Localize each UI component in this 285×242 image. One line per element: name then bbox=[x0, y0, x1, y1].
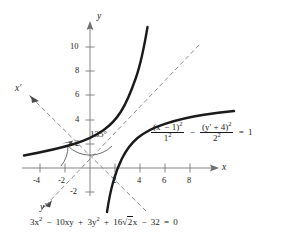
x-prime-axis-label: x' bbox=[15, 84, 21, 94]
x-axis bbox=[22, 164, 219, 173]
general-form-equation: 3x2 − 10xy + 3y2 + 16√2x − 32 = 0 bbox=[30, 218, 178, 227]
right-denominator-exp: 2 bbox=[217, 131, 220, 138]
left-numerator-base: (x' − 1) bbox=[153, 122, 179, 132]
y-axis bbox=[86, 21, 95, 196]
y-axis-label: y bbox=[97, 12, 101, 22]
gf-term1-exp: 2 bbox=[39, 215, 42, 222]
y-tick-label-8: 8 bbox=[75, 66, 79, 75]
right-numerator-exp: 2 bbox=[228, 120, 231, 127]
gf-term1: 3x2 bbox=[30, 217, 42, 227]
x-tick-label-2: 2 bbox=[112, 176, 116, 185]
gf-term5: 32 bbox=[151, 217, 160, 227]
gf-term3-exp: 2 bbox=[96, 215, 99, 222]
gf-op1: − bbox=[45, 217, 54, 227]
gf-op4: − bbox=[139, 217, 148, 227]
left-fraction: (x' − 1)2 12 bbox=[151, 122, 184, 144]
left-denominator-exp: 2 bbox=[168, 131, 171, 138]
right-fraction: (y' + 4)2 22 bbox=[200, 122, 233, 144]
x-tick-label-6: 6 bbox=[162, 176, 166, 185]
y-tick-label-4: 4 bbox=[75, 115, 79, 124]
equation-rhs: 1 bbox=[248, 127, 253, 137]
left-numerator-exp: 2 bbox=[179, 120, 182, 127]
gf-term4-variable: x bbox=[133, 217, 138, 227]
gf-rhs: 0 bbox=[173, 217, 178, 227]
x-prime-axis bbox=[29, 95, 146, 211]
gf-term1-base: 3x bbox=[30, 217, 39, 227]
x-tick-label-neg2: -2 bbox=[58, 176, 65, 185]
gf-equals-sign: = bbox=[162, 217, 171, 227]
math-figure: y x x' y' 135° -4 -2 2 4 6 8 10 8 6 4 2 … bbox=[0, 0, 285, 242]
right-denominator: 22 bbox=[200, 133, 233, 143]
y-tick-label-2: 2 bbox=[75, 139, 79, 148]
left-denominator: 12 bbox=[151, 133, 184, 143]
x-tick-label-8: 8 bbox=[187, 176, 191, 185]
x-axis-label: x bbox=[222, 163, 226, 173]
x-tick-label-4: 4 bbox=[137, 176, 141, 185]
gf-op3: + bbox=[102, 217, 111, 227]
hyperbola-upper-branch bbox=[24, 27, 148, 156]
gf-term3: 3y2 bbox=[87, 217, 99, 227]
x-tick-label-neg4: -4 bbox=[33, 176, 40, 185]
right-numerator-base: (y' + 4) bbox=[202, 122, 228, 132]
gf-term4: 16√2x bbox=[113, 216, 137, 227]
gf-term4-coefficient: 16 bbox=[113, 217, 122, 227]
gf-term2: 10xy bbox=[56, 217, 74, 227]
equation-minus-operator: − bbox=[188, 127, 197, 137]
y-tick-label-10: 10 bbox=[70, 42, 79, 51]
y-tick-label-6: 6 bbox=[75, 90, 79, 99]
gf-op2: + bbox=[76, 217, 85, 227]
equation-equals-sign: = bbox=[237, 127, 246, 137]
standard-form-equation: (x' − 1)2 12 − (y' + 4)2 22 = 1 bbox=[150, 122, 253, 144]
y-tick-label-neg2: -2 bbox=[70, 187, 77, 196]
angle-label: 135° bbox=[90, 130, 107, 139]
y-prime-axis-label: y' bbox=[40, 203, 46, 213]
